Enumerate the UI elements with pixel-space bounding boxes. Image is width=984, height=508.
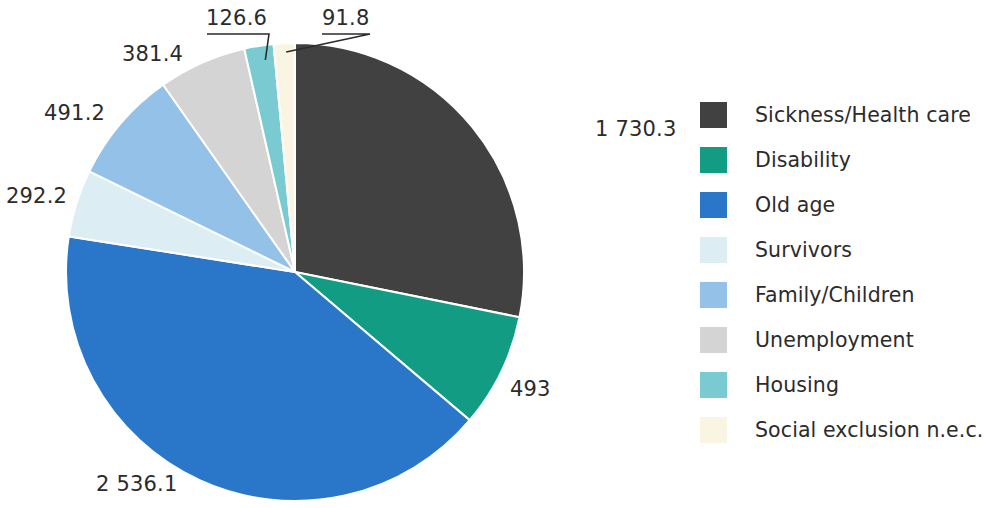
slice-value-label: 292.2 <box>6 184 67 208</box>
slice-value-label: 493 <box>510 377 551 401</box>
legend-item[interactable]: Sickness/Health care <box>700 92 984 137</box>
slice-value-label: 381.4 <box>122 42 183 66</box>
legend-item[interactable]: Old age <box>700 182 984 227</box>
legend-item[interactable]: Family/Children <box>700 272 984 317</box>
legend-color-swatch <box>700 327 727 353</box>
legend-item-label: Sickness/Health care <box>755 103 971 127</box>
slice-value-label: 491.2 <box>44 101 105 125</box>
slice-value-label: 1 730.3 <box>595 117 677 141</box>
legend-item-label: Old age <box>755 193 835 217</box>
legend-item-label: Family/Children <box>755 283 915 307</box>
legend-item[interactable]: Unemployment <box>700 317 984 362</box>
legend-color-swatch <box>700 372 727 398</box>
chart-legend: Sickness/Health careDisabilityOld ageSur… <box>700 92 984 452</box>
legend-color-swatch <box>700 102 727 128</box>
legend-color-swatch <box>700 282 727 308</box>
legend-item[interactable]: Disability <box>700 137 984 182</box>
legend-item[interactable]: Survivors <box>700 227 984 272</box>
legend-item-label: Survivors <box>755 238 852 262</box>
slice-value-label: 91.8 <box>322 6 370 30</box>
legend-item-label: Disability <box>755 148 851 172</box>
legend-color-swatch <box>700 192 727 218</box>
legend-item-label: Housing <box>755 373 839 397</box>
legend-item-label: Unemployment <box>755 328 914 352</box>
pie-slice[interactable] <box>295 43 524 317</box>
legend-item[interactable]: Housing <box>700 362 984 407</box>
slice-value-label: 126.6 <box>206 6 267 30</box>
legend-item-label: Social exclusion n.e.c. <box>755 418 983 442</box>
slice-value-label: 2 536.1 <box>96 472 178 496</box>
legend-color-swatch <box>700 417 727 443</box>
pie-slice-group <box>66 43 524 501</box>
legend-color-swatch <box>700 147 727 173</box>
pie-chart-figure: 1 730.34932 536.1292.2491.2381.4126.691.… <box>0 0 984 508</box>
legend-color-swatch <box>700 237 727 263</box>
legend-item[interactable]: Social exclusion n.e.c. <box>700 407 984 452</box>
